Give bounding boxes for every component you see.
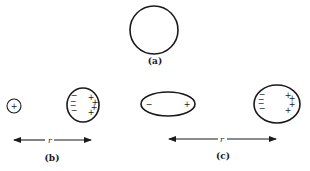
panel-a: (a): [130, 6, 178, 66]
panel-b-label: (b): [45, 153, 60, 163]
svg-text:+: +: [88, 108, 95, 117]
point-charge-sign: +: [11, 102, 18, 111]
svg-text:−: −: [259, 104, 266, 113]
panel-b: + − − − − + + + + r (b): [7, 88, 99, 163]
panel-c-label: (c): [216, 151, 230, 161]
svg-text:−: −: [71, 106, 78, 115]
dipole-positive-end: +: [184, 100, 191, 109]
distance-label-c: r: [220, 135, 225, 144]
panel-a-label: (a): [148, 56, 162, 66]
panel-c: − + − − − − + + + + r (c): [141, 85, 300, 161]
induced-positive-charges-c: + + + +: [285, 91, 296, 115]
distance-label-b: r: [48, 136, 53, 145]
induced-negative-charges-b: − − − −: [70, 91, 78, 115]
diagram-canvas: (a) + − − − − + + + + r (b) − + − −: [0, 0, 310, 171]
svg-text:+: +: [285, 106, 292, 115]
neutral-sphere: [130, 6, 178, 54]
induced-negative-charges-c: − − − −: [258, 90, 266, 113]
dipole-negative-end: −: [146, 100, 153, 109]
